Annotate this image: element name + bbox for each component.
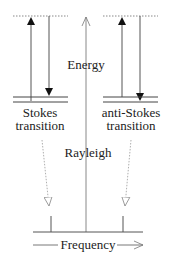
anti-stokes-label-line2: transition [106, 118, 156, 133]
energy-label: Energy [67, 57, 105, 72]
stokes-label-line2: transition [15, 118, 65, 133]
stokes-group [13, 16, 68, 102]
anti-stokes-group [103, 16, 158, 102]
anti-stokes-projection-arrow [125, 140, 131, 206]
stokes-projection-arrow [42, 140, 49, 206]
rayleigh-label: Rayleigh [65, 145, 112, 160]
frequency-label: Frequency [61, 237, 116, 252]
raman-energy-diagram: Energy Stokes transition anti-Stokes tra… [0, 0, 172, 266]
